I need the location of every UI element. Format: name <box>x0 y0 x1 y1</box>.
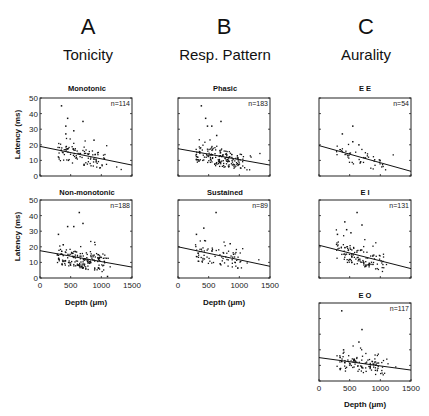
data-points <box>195 105 260 170</box>
x-tick-label: 1000 <box>371 384 389 393</box>
scatter-plot-monotonic: 01020304050n=114 <box>20 94 140 184</box>
x-axis-label-a2: Depth (μm) <box>36 298 136 307</box>
column-letter-b: B <box>174 14 274 40</box>
scatter-plot-non-monotonic: 01020304050050010001500n=188 <box>20 196 142 296</box>
plot-frame <box>319 303 411 381</box>
panel-title-ee: E E <box>315 84 415 93</box>
scatter-plot-eo: 050010001500n=117 <box>299 299 421 399</box>
x-axis-label-b2: Depth (μm) <box>174 298 274 307</box>
plot-frame <box>178 200 270 278</box>
x-tick-label: 1500 <box>402 384 420 393</box>
y-tick-label: 20 <box>29 141 38 150</box>
y-tick-label: 40 <box>29 212 38 221</box>
column-letter-c: C <box>316 14 416 40</box>
y-tick-label: 50 <box>29 196 38 205</box>
data-points <box>195 212 260 269</box>
y-tick-label: 50 <box>29 94 38 103</box>
sample-size-label: n=114 <box>111 100 130 107</box>
sample-size-label: n=183 <box>248 100 268 107</box>
plot-frame <box>319 98 411 176</box>
data-points <box>336 212 387 272</box>
x-tick-label: 500 <box>343 384 357 393</box>
sample-size-label: n=131 <box>389 202 409 209</box>
y-tick-label: 0 <box>34 172 39 181</box>
y-tick-label: 20 <box>29 243 38 252</box>
column-title-aurality: Aurality <box>296 46 429 63</box>
x-tick-label: 1500 <box>261 281 279 290</box>
scatter-plot-ei: n=131 <box>299 196 419 286</box>
column-title-resp-pattern: Resp. Pattern <box>155 46 295 63</box>
plot-frame <box>40 98 132 176</box>
data-points <box>57 105 121 170</box>
x-tick-label: 0 <box>38 281 43 290</box>
x-tick-label: 1000 <box>92 281 110 290</box>
panel-title-phasic: Phasic <box>175 84 275 93</box>
column-title-tonicity: Tonicity <box>18 46 158 63</box>
y-tick-label: 30 <box>29 125 38 134</box>
x-axis-label-c3: Depth (μm) <box>315 400 415 409</box>
x-tick-label: 1500 <box>123 281 141 290</box>
scatter-plot-sustained: 050010001500n=89 <box>158 196 280 296</box>
x-tick-label: 1000 <box>230 281 248 290</box>
y-tick-label: 10 <box>29 156 38 165</box>
sample-size-label: n=54 <box>393 100 409 107</box>
x-tick-label: 500 <box>64 281 78 290</box>
plot-frame <box>178 98 270 176</box>
x-tick-label: 0 <box>176 281 181 290</box>
column-letter-a: A <box>38 14 138 40</box>
data-points <box>57 212 111 277</box>
sample-size-label: n=117 <box>390 305 409 312</box>
sample-size-label: n=188 <box>110 202 130 209</box>
regression-line <box>319 358 411 370</box>
scatter-plot-ee: n=54 <box>299 94 419 184</box>
y-tick-label: 30 <box>29 227 38 236</box>
x-tick-label: 500 <box>202 281 216 290</box>
sample-size-label: n=89 <box>252 202 268 209</box>
x-tick-label: 0 <box>317 384 322 393</box>
y-tick-label: 40 <box>29 110 38 119</box>
data-points <box>336 310 396 375</box>
regression-line <box>319 146 411 172</box>
y-tick-label: 10 <box>29 258 38 267</box>
scatter-plot-phasic: n=183 <box>158 94 278 184</box>
panel-title-monotonic: Monotonic <box>37 84 137 93</box>
